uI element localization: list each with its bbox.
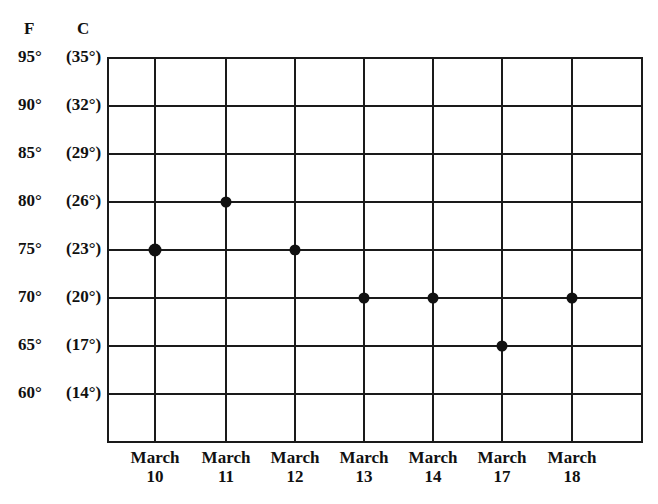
data-point bbox=[290, 245, 301, 256]
data-point bbox=[149, 244, 162, 257]
data-point bbox=[359, 293, 370, 304]
grid-lines bbox=[108, 58, 642, 442]
data-point bbox=[567, 293, 578, 304]
data-point bbox=[428, 293, 439, 304]
chart-plot-area bbox=[0, 0, 658, 504]
data-point bbox=[221, 197, 232, 208]
data-point bbox=[497, 341, 508, 352]
